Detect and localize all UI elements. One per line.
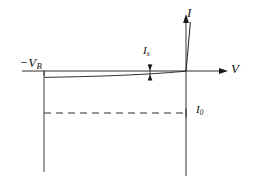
saturation-current-label: Is [143, 45, 150, 58]
current-axis-label: I [187, 6, 191, 19]
breakdown-voltage-label: −VB [20, 56, 42, 71]
diode-iv-characteristic-figure: V I −VB Is I0 [0, 0, 255, 188]
forward-bias-exponential-curve [186, 22, 190, 71]
saturation-current-subscript: s [147, 50, 150, 58]
voltage-axis-label: V [231, 62, 239, 75]
breakdown-voltage-subscript: B [36, 61, 41, 71]
voltage-axis [22, 68, 228, 74]
reverse-current-label: I0 [196, 104, 203, 117]
voltage-axis-label-text: V [231, 61, 239, 76]
chart-canvas [0, 0, 255, 188]
reverse-current-subscript: 0 [200, 109, 204, 117]
is-arrowhead-down-icon [148, 65, 153, 71]
current-axis-label-text: I [187, 5, 191, 20]
saturation-current-measure-arrow [148, 64, 153, 81]
i0-reference-level [44, 109, 188, 118]
is-arrowhead-up-icon [148, 75, 153, 81]
current-axis [183, 14, 189, 176]
reverse-saturation-current-curve [44, 71, 186, 77]
voltage-axis-arrowhead-icon [219, 68, 228, 74]
